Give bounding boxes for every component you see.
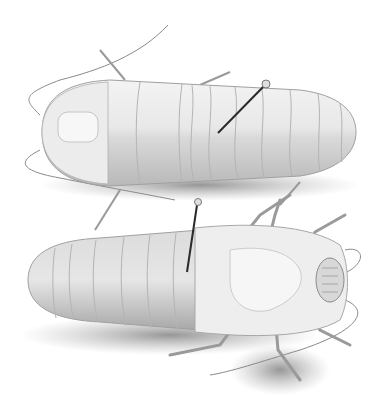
dorsal-insect — [25, 25, 360, 230]
pronotum-marking — [58, 112, 98, 142]
illustration-canvas — [0, 0, 383, 413]
pin-head — [262, 80, 270, 88]
head — [316, 258, 344, 302]
leg — [100, 50, 125, 80]
insects-illustration — [0, 0, 383, 413]
leg — [200, 72, 230, 85]
ventral-insect — [20, 195, 361, 395]
pin-head — [195, 199, 202, 206]
